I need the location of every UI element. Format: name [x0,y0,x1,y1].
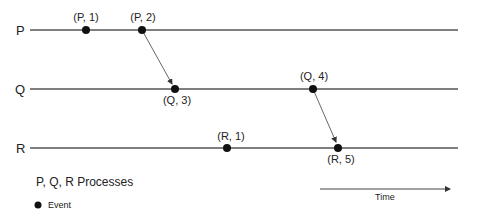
event-label-r5: (R, 5) [327,153,355,165]
time-axis-label: Time [375,192,395,202]
legend-event-dot-icon [35,202,42,209]
event-label-q4: (Q, 4) [300,70,328,82]
message-arrow-p2-q3 [142,30,172,84]
event-dot-q4 [309,85,317,93]
event-label-q3: (Q, 3) [163,94,191,106]
event-dot-p2 [138,26,146,34]
event-dot-q3 [171,85,179,93]
event-label-p1: (P, 1) [73,11,98,23]
event-label-r1: (R, 1) [217,130,245,142]
legend-processes: P, Q, R Processes [36,175,133,189]
event-dot-r1 [223,144,231,152]
process-label-r: R [16,141,25,156]
event-dot-p1 [82,26,90,34]
event-label-p2: (P, 2) [130,11,155,23]
legend-event: Event [48,200,72,210]
process-label-q: Q [15,82,25,97]
message-arrow-q4-r5 [313,89,336,142]
process-label-p: P [16,23,25,38]
space-time-diagram: P Q R (P, 1) (P, 2) (Q, 3) (Q, 4) (R, 1)… [0,0,477,219]
event-dot-r5 [334,144,342,152]
